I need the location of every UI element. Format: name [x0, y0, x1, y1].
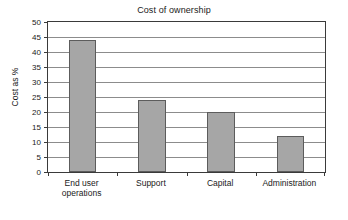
- plot-area: 05101520253035404550: [47, 21, 326, 173]
- y-axis-tick-mark: [44, 127, 48, 128]
- y-axis-tick-mark: [44, 97, 48, 98]
- bar: [69, 40, 97, 172]
- y-axis-tick-label: 5: [19, 153, 41, 162]
- x-axis-tick-mark: [187, 172, 188, 176]
- bar: [138, 100, 166, 172]
- x-axis-tick-mark: [324, 172, 325, 176]
- x-axis-category-label: Administration: [255, 178, 324, 188]
- y-axis-tick-label: 25: [19, 93, 41, 102]
- y-axis-tick-label: 50: [19, 18, 41, 27]
- y-axis-tick-mark: [44, 82, 48, 83]
- bar-chart: Cost of ownership Cost as % 051015202530…: [0, 0, 348, 220]
- y-axis-tick-label: 35: [19, 63, 41, 72]
- y-axis-tick-mark: [44, 52, 48, 53]
- x-axis-category-label: Capital: [186, 178, 255, 188]
- y-axis-tick-mark: [44, 67, 48, 68]
- y-axis-tick-label: 0: [19, 168, 41, 177]
- x-axis-tick-mark: [48, 172, 49, 176]
- bar: [277, 136, 305, 172]
- x-axis-tick-mark: [256, 172, 257, 176]
- y-axis-tick-label: 30: [19, 78, 41, 87]
- y-axis-tick-mark: [44, 157, 48, 158]
- y-axis-tick-mark: [44, 142, 48, 143]
- y-axis-tick-label: 20: [19, 108, 41, 117]
- y-axis-tick-label: 10: [19, 138, 41, 147]
- y-axis-tick-mark: [44, 112, 48, 113]
- y-axis-tick-label: 45: [19, 33, 41, 42]
- y-axis-tick-mark: [44, 22, 48, 23]
- y-axis-tick-label: 40: [19, 48, 41, 57]
- chart-title: Cost of ownership: [0, 5, 348, 15]
- y-axis-tick-mark: [44, 37, 48, 38]
- x-axis-category-label: End user operations: [47, 178, 116, 198]
- x-axis-tick-mark: [117, 172, 118, 176]
- gridline: [48, 37, 325, 38]
- y-axis-tick-label: 15: [19, 123, 41, 132]
- x-axis-category-label: Support: [116, 178, 185, 188]
- bar: [207, 112, 235, 172]
